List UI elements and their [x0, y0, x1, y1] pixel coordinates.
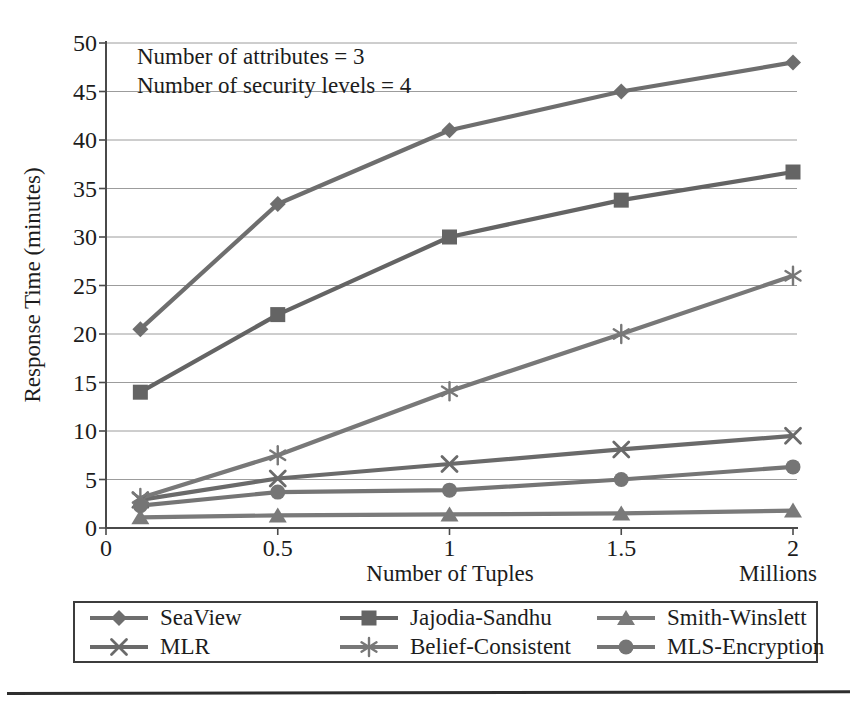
legend-item-label: MLR [160, 634, 210, 660]
legend-item-label: MLS-Encryption [667, 634, 824, 660]
square-marker-icon [270, 307, 285, 322]
y-axis-tick-label: 45 [30, 77, 97, 107]
x-axis-tick-label: 1 [420, 534, 480, 562]
page-bottom-rule [7, 690, 850, 695]
circle-marker-icon [614, 472, 629, 487]
diamond-marker-icon [442, 122, 458, 138]
legend-diamond-marker-icon [88, 606, 150, 630]
chart-plot-area [0, 0, 851, 600]
x-axis-tick-label: 0.5 [248, 534, 308, 562]
legend-item-label: Smith-Winslett [667, 605, 807, 631]
x-axis-title: Number of Tuples [300, 561, 600, 587]
legend-item-label: Jajodia-Sandhu [410, 605, 552, 631]
circle-marker-icon [619, 639, 634, 654]
x-axis-tick-label: 2 [763, 534, 823, 562]
x-axis-tick-label: 0 [76, 534, 136, 562]
legend-item-seaview: SeaView [88, 605, 338, 631]
annotation-line-1: Number of attributes = 3 [137, 42, 411, 71]
x-axis-unit-label: Millions [695, 561, 817, 587]
square-marker-icon [442, 230, 457, 245]
x-axis-tick-label: 1.5 [591, 534, 651, 562]
square-marker-icon [786, 165, 801, 180]
series-markers-jajodia-sandhu [133, 165, 801, 400]
legend-item-mlr: MLR [88, 634, 338, 660]
series-line-seaview [140, 62, 793, 329]
chart-legend: SeaViewJajodia-SandhuSmith-WinslettMLRBe… [73, 601, 818, 663]
square-marker-icon [362, 610, 377, 625]
square-marker-icon [614, 193, 629, 208]
axes [99, 41, 798, 535]
plot-annotation: Number of attributes = 3 Number of secur… [137, 42, 411, 100]
diamond-marker-icon [613, 84, 629, 100]
circle-marker-icon [133, 498, 148, 513]
chart-figure: 05101520253035404550 00.511.52 Number of… [0, 0, 851, 705]
annotation-line-2: Number of security levels = 4 [137, 71, 411, 100]
y-axis-tick-label: 5 [30, 465, 97, 495]
legend-item-belief-consistent: Belief-Consistent [338, 634, 595, 660]
legend-asterisk-marker-icon [338, 635, 400, 659]
legend-item-smith-winslett: Smith-Winslett [595, 605, 824, 631]
legend-item-label: Belief-Consistent [410, 634, 571, 660]
legend-item-mls-encryption: MLS-Encryption [595, 634, 824, 660]
gridlines [106, 43, 797, 480]
diamond-marker-icon [111, 610, 127, 626]
series-line-jajodia-sandhu [140, 172, 793, 392]
y-axis-tick-label: 50 [30, 28, 97, 58]
diamond-marker-icon [785, 54, 801, 70]
y-axis-title: Response Time (minutes) [20, 135, 48, 435]
legend-item-label: SeaView [160, 605, 242, 631]
circle-marker-icon [270, 485, 285, 500]
legend-circle-marker-icon [595, 635, 657, 659]
circle-marker-icon [442, 483, 457, 498]
legend-x-marker-icon [88, 635, 150, 659]
square-marker-icon [133, 385, 148, 400]
legend-item-jajodia-sandhu: Jajodia-Sandhu [338, 605, 595, 631]
series-line-smith-winslett [140, 511, 793, 518]
legend-triangle-marker-icon [595, 606, 657, 630]
circle-marker-icon [786, 459, 801, 474]
legend-square-marker-icon [338, 606, 400, 630]
